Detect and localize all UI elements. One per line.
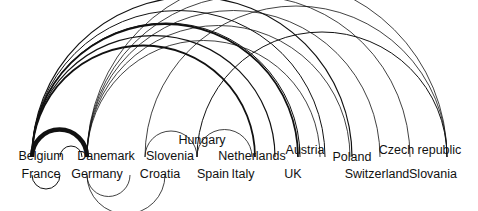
node-label-hungary: Hungary	[178, 134, 225, 147]
node-label-slovania: Slovania	[409, 168, 457, 181]
arc-edge	[32, 24, 298, 157]
arc-edge	[32, 36, 275, 157]
node-label-croatia: Croatia	[140, 168, 180, 181]
node-label-france: France	[22, 168, 61, 181]
arc-edge	[87, 0, 447, 157]
node-label-denmark: Danemark	[77, 150, 135, 163]
node-label-italy: Italy	[232, 168, 255, 181]
node-label-austria: Austria	[286, 144, 325, 157]
arc-edge	[197, 32, 447, 157]
node-label-spain: Spain	[197, 168, 229, 181]
node-label-slovenia: Slovenia	[146, 150, 194, 163]
arc-edge	[87, 0, 410, 157]
node-label-germany: Germany	[71, 168, 122, 181]
node-label-belgium: Belgium	[18, 150, 63, 163]
node-label-netherlands: Netherlands	[218, 150, 285, 163]
node-label-poland: Poland	[333, 151, 372, 164]
node-label-czech: Czech republic	[379, 144, 462, 157]
node-label-switzerland: Switzerland	[345, 168, 410, 181]
node-label-uk: UK	[284, 168, 301, 181]
arc-edge	[32, 23, 300, 157]
